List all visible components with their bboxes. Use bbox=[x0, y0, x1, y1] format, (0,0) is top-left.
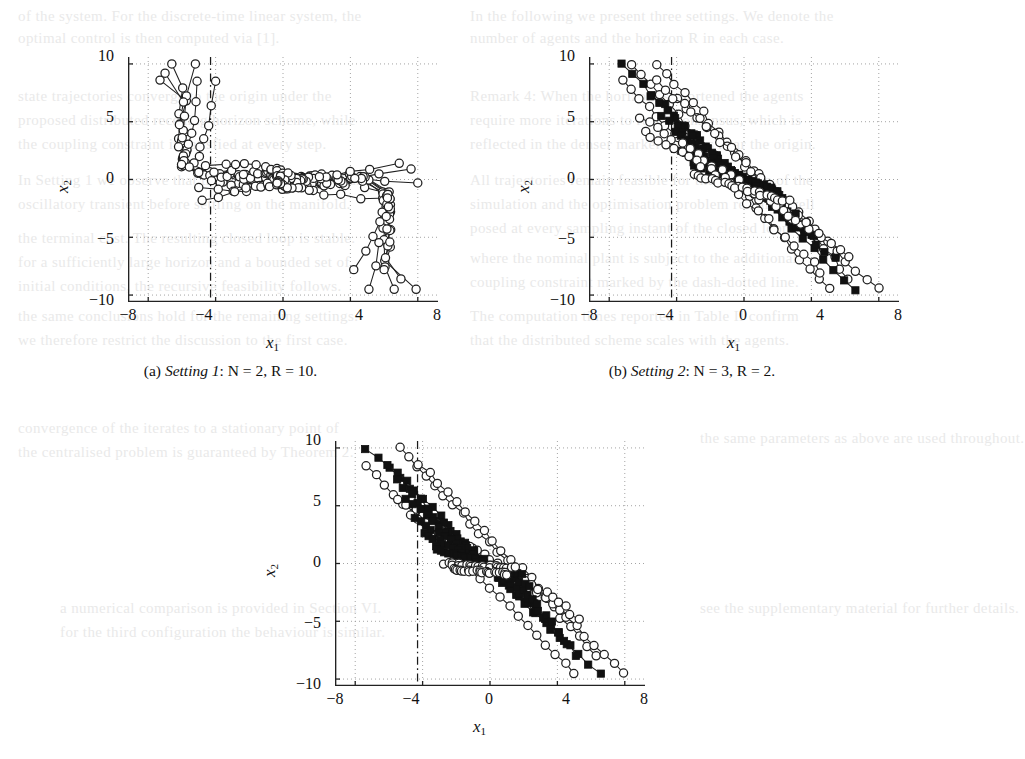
panel-a-plot bbox=[128, 57, 438, 302]
panel-a: x2 10 5 0 −5 −10 −8 −4 0 4 8 x1 (a) Sett… bbox=[0, 0, 461, 400]
panel-b-ylabel: x2 bbox=[514, 159, 534, 193]
panel-a-xtick-2: 0 bbox=[264, 306, 300, 324]
panel-b-ytick-4: −10 bbox=[521, 291, 575, 309]
panel-b-ytick-0: 10 bbox=[535, 47, 575, 65]
panel-c-xtick-3: 4 bbox=[548, 690, 584, 708]
panel-a-xtick-0: −8 bbox=[110, 306, 146, 324]
panel-c-ytick-1: 5 bbox=[281, 492, 321, 510]
panel-b-xlabel: x1 bbox=[727, 333, 740, 353]
panel-a-caption-label: (a) bbox=[144, 362, 161, 379]
panel-c-ytick-4: −10 bbox=[267, 675, 321, 693]
panel-b-plot bbox=[589, 57, 899, 302]
panel-a-ytick-2: 0 bbox=[74, 169, 114, 187]
panel-a-xtick-3: 4 bbox=[341, 306, 377, 324]
panel-c-ytick-0: 10 bbox=[281, 431, 321, 449]
panel-b-ytick-3: −5 bbox=[527, 230, 575, 248]
panel-a-ytick-1: 5 bbox=[74, 108, 114, 126]
panel-b-caption-params: : N = 3, R = 2. bbox=[685, 362, 775, 379]
panel-c: x2 10 5 0 −5 −10 −8 −4 0 4 8 x1 bbox=[207, 384, 669, 759]
bleed-text-26: the same parameters as above are used th… bbox=[700, 430, 1025, 447]
panel-b-ytick-1: 5 bbox=[535, 108, 575, 126]
panel-b-caption-label: (b) bbox=[609, 362, 627, 379]
panel-b-xtick-4: 8 bbox=[880, 306, 916, 324]
panel-b-ytick-2: 0 bbox=[535, 169, 575, 187]
panel-a-caption: (a) Setting 1: N = 2, R = 10. bbox=[0, 362, 461, 380]
panel-b-xtick-2: 0 bbox=[725, 306, 761, 324]
panel-b-canvas bbox=[589, 57, 899, 302]
panel-a-ytick-4: −10 bbox=[60, 291, 114, 309]
panel-a-xlabel: x1 bbox=[266, 333, 279, 353]
panel-c-xtick-4: 8 bbox=[626, 690, 662, 708]
panel-a-caption-setting: Setting 1 bbox=[165, 362, 220, 379]
panel-c-ytick-2: 0 bbox=[281, 553, 321, 571]
panel-c-ytick-3: −5 bbox=[273, 614, 321, 632]
panel-c-canvas bbox=[335, 441, 645, 686]
panel-a-caption-params: : N = 2, R = 10. bbox=[220, 362, 318, 379]
panel-c-ylabel: x2 bbox=[260, 543, 280, 577]
panel-c-plot bbox=[335, 441, 645, 686]
panel-b: x2 10 5 0 −5 −10 −8 −4 0 4 8 x1 (b) Sett… bbox=[461, 0, 923, 400]
panel-b-caption: (b) Setting 2: N = 3, R = 2. bbox=[461, 362, 923, 380]
panel-a-ytick-0: 10 bbox=[74, 47, 114, 65]
panel-b-xtick-0: −8 bbox=[571, 306, 607, 324]
panel-b-caption-setting: Setting 2 bbox=[631, 362, 686, 379]
panel-b-xtick-1: −4 bbox=[647, 306, 683, 324]
panel-a-canvas bbox=[128, 57, 438, 302]
panel-a-xtick-4: 8 bbox=[419, 306, 455, 324]
panel-a-xtick-1: −4 bbox=[186, 306, 222, 324]
panel-a-ytick-3: −5 bbox=[66, 230, 114, 248]
panel-c-xlabel: x1 bbox=[473, 717, 486, 737]
panel-c-xtick-2: 0 bbox=[471, 690, 507, 708]
bleed-text-29: see the supplementary material for furth… bbox=[700, 600, 1019, 617]
panel-b-xtick-3: 4 bbox=[802, 306, 838, 324]
panel-a-ylabel: x2 bbox=[53, 159, 73, 193]
panel-c-xtick-1: −4 bbox=[393, 690, 429, 708]
panel-c-xtick-0: −8 bbox=[317, 690, 353, 708]
